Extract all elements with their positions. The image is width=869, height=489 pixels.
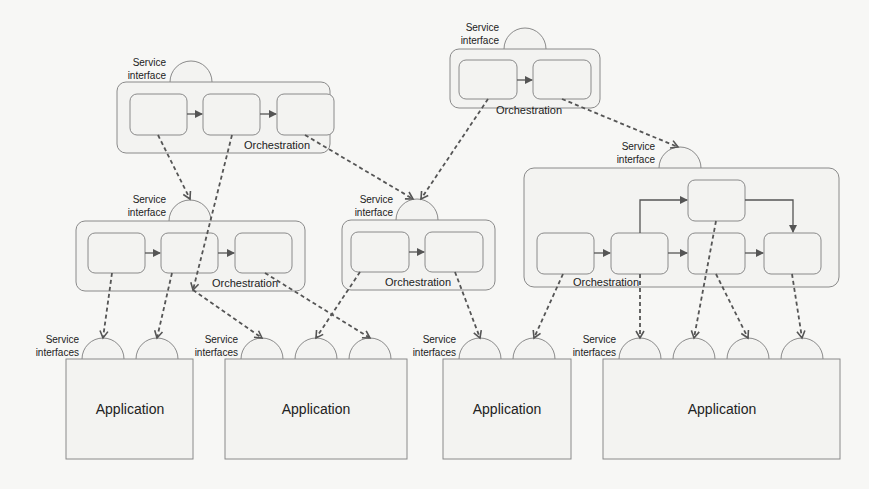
step-box	[688, 180, 745, 221]
step-box	[351, 232, 409, 272]
step-box	[203, 94, 260, 135]
orchestration-label: Orchestration	[496, 104, 562, 116]
service-label: Service	[423, 334, 457, 345]
service-interface-port	[504, 28, 546, 49]
interface-label: interface	[128, 207, 167, 218]
step-box	[459, 60, 517, 99]
application-1	[66, 338, 193, 459]
step-box	[130, 94, 187, 135]
interfaces-label: interfaces	[36, 347, 79, 358]
step-box	[537, 233, 594, 274]
step-box	[161, 233, 218, 273]
step-box	[425, 232, 483, 272]
step-box	[688, 233, 745, 274]
step-box	[88, 233, 145, 273]
service-label: Service	[583, 334, 617, 345]
step-box	[277, 94, 334, 135]
service-orchestration-diagram: Service interface Orchestration Service …	[0, 0, 869, 489]
service-interface-port	[169, 200, 211, 221]
application-label: Application	[473, 401, 542, 417]
application-label: Application	[688, 401, 757, 417]
orchestration-right	[524, 147, 839, 287]
service-interface-port	[659, 147, 701, 168]
orchestration-label: Orchestration	[385, 276, 451, 288]
service-interface-port	[82, 338, 124, 359]
service-interface-port	[170, 61, 212, 82]
service-interface-port	[781, 338, 823, 359]
service-label: Service	[133, 57, 167, 68]
service-interface-port	[673, 338, 715, 359]
service-interface-port	[619, 338, 661, 359]
orchestration-label: Orchestration	[212, 277, 278, 289]
step-box	[533, 60, 591, 99]
interface-label: interface	[355, 207, 394, 218]
step-box	[764, 233, 821, 274]
interfaces-label: interfaces	[195, 347, 238, 358]
orchestration-label: Orchestration	[244, 139, 310, 151]
service-label: Service	[46, 334, 80, 345]
interfaces-label: interfaces	[413, 347, 456, 358]
service-interface-port	[349, 338, 391, 359]
service-label: Service	[622, 141, 656, 152]
service-label: Service	[360, 194, 394, 205]
application-4	[603, 338, 840, 459]
interfaces-label: interfaces	[573, 347, 616, 358]
application-3	[443, 338, 571, 459]
step-box	[235, 233, 292, 273]
orchestration-label: Orchestration	[573, 276, 639, 288]
service-interface-port	[396, 199, 438, 220]
service-label: Service	[466, 22, 500, 33]
service-interface-port	[136, 338, 178, 359]
interface-label: interface	[128, 70, 167, 81]
interface-label: interface	[461, 35, 500, 46]
service-interface-port	[513, 338, 555, 359]
step-box	[611, 233, 668, 274]
service-interface-port	[459, 338, 501, 359]
service-label: Service	[133, 194, 167, 205]
service-label: Service	[205, 334, 239, 345]
application-label: Application	[96, 401, 165, 417]
application-label: Application	[282, 401, 351, 417]
service-interface-port	[295, 338, 337, 359]
service-interface-port	[727, 338, 769, 359]
service-interface-port	[241, 338, 283, 359]
application-2	[225, 338, 407, 459]
interface-label: interface	[617, 154, 656, 165]
